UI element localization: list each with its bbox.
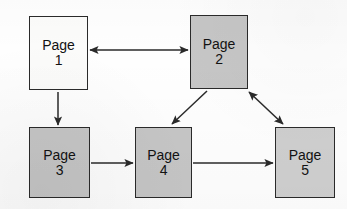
- node-page-3-number: 3: [56, 163, 64, 178]
- page-link-diagram: Page 1 Page 2 Page 3 Page 4 Page 5: [0, 0, 347, 209]
- node-page-5[interactable]: Page 5: [275, 127, 335, 198]
- node-page-1-label: Page: [42, 38, 74, 53]
- node-page-2-number: 2: [215, 52, 223, 67]
- node-page-5-number: 5: [301, 163, 309, 178]
- edge-page2-page5: [249, 92, 283, 124]
- node-page-1[interactable]: Page 1: [29, 16, 88, 90]
- node-page-4-number: 4: [160, 163, 168, 178]
- node-page-1-number: 1: [55, 53, 63, 68]
- node-page-3-label: Page: [43, 148, 75, 163]
- node-page-2[interactable]: Page 2: [190, 15, 248, 89]
- node-page-5-label: Page: [289, 148, 321, 163]
- node-page-4-label: Page: [147, 148, 179, 163]
- node-page-4[interactable]: Page 4: [135, 127, 192, 198]
- node-page-3[interactable]: Page 3: [29, 127, 90, 198]
- edge-page2-page4: [172, 91, 207, 124]
- node-page-2-label: Page: [203, 37, 235, 52]
